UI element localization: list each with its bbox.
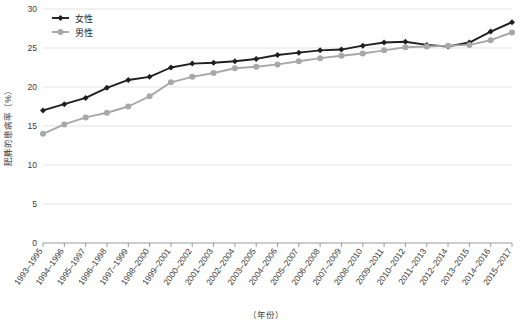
y-tick-label-5: 5 <box>32 199 37 209</box>
data-point-female-0 <box>40 107 46 113</box>
y-axis-title: 肥胖的患病率（%） <box>3 86 13 166</box>
x-axis-title: （年份） <box>248 310 284 320</box>
data-point-male-4 <box>125 104 131 110</box>
legend-marker-diamond-icon <box>58 15 64 21</box>
y-axis-tick-labels: 051015202530 <box>28 4 38 248</box>
x-axis-ticks <box>43 243 512 247</box>
data-point-female-22 <box>509 19 515 25</box>
legend: 女性男性 <box>52 13 93 38</box>
gridlines <box>43 9 512 243</box>
data-point-male-3 <box>104 110 110 116</box>
data-point-female-1 <box>61 101 67 107</box>
data-point-male-20 <box>466 42 472 48</box>
data-point-female-12 <box>296 50 302 56</box>
data-point-female-10 <box>253 56 259 62</box>
data-point-male-0 <box>40 131 46 137</box>
y-tick-label-15: 15 <box>28 121 38 131</box>
data-point-male-12 <box>296 58 302 64</box>
data-point-male-13 <box>317 55 323 61</box>
data-point-male-6 <box>168 79 174 85</box>
data-point-male-15 <box>360 50 366 56</box>
data-point-male-8 <box>211 70 217 76</box>
data-point-female-6 <box>168 65 174 71</box>
y-tick-label-10: 10 <box>28 160 38 170</box>
data-point-female-2 <box>83 95 89 101</box>
data-point-male-9 <box>232 65 238 71</box>
data-point-male-19 <box>445 43 451 49</box>
data-point-female-4 <box>125 77 131 83</box>
legend-label-female: 女性 <box>75 13 93 24</box>
data-point-female-3 <box>104 85 110 91</box>
data-point-male-14 <box>338 53 344 59</box>
chart-canvas: 0510152025301993–19951994–19961995–19971… <box>0 0 530 324</box>
data-point-female-14 <box>338 47 344 53</box>
legend-item-female[interactable]: 女性 <box>52 13 93 24</box>
data-point-male-5 <box>147 93 153 99</box>
data-point-female-7 <box>189 61 195 67</box>
y-tick-label-20: 20 <box>28 82 38 92</box>
y-tick-label-25: 25 <box>28 43 38 53</box>
legend-item-male[interactable]: 男性 <box>52 27 93 38</box>
data-point-male-11 <box>275 61 281 67</box>
data-point-male-17 <box>402 44 408 50</box>
y-tick-label-30: 30 <box>28 4 38 14</box>
legend-label-male: 男性 <box>75 27 93 38</box>
data-point-female-16 <box>381 40 387 46</box>
data-point-male-1 <box>61 121 67 127</box>
obesity-prevalence-line-chart: 0510152025301993–19951994–19961995–19971… <box>0 0 530 324</box>
data-point-male-7 <box>189 74 195 80</box>
data-point-male-10 <box>253 64 259 70</box>
data-point-male-18 <box>424 43 430 49</box>
data-point-female-11 <box>275 52 281 58</box>
data-point-male-21 <box>488 37 494 43</box>
data-point-female-17 <box>402 39 408 45</box>
data-point-male-16 <box>381 47 387 53</box>
data-point-female-8 <box>211 60 217 66</box>
series-male <box>40 29 515 136</box>
data-point-male-2 <box>83 114 89 120</box>
data-point-female-9 <box>232 58 238 64</box>
data-point-male-22 <box>509 29 515 35</box>
legend-marker-circle-icon <box>58 29 64 35</box>
x-axis-tick-labels: 1993–19951994–19961995–19971996–19981997… <box>12 246 514 287</box>
data-point-female-5 <box>147 74 153 80</box>
